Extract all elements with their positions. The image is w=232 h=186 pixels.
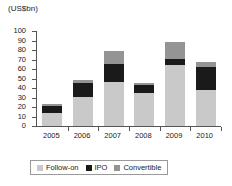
bar-segment[interactable] (73, 80, 93, 83)
y-tick-label: 30 (18, 94, 26, 102)
legend-item[interactable]: Convertible (114, 163, 161, 172)
bar-group[interactable] (73, 31, 93, 126)
bar-segment[interactable] (73, 97, 93, 126)
legend-label: Follow-on (46, 163, 79, 172)
bar-segment[interactable] (42, 113, 62, 126)
legend-label: Convertible (123, 163, 161, 172)
bar-segment[interactable] (196, 62, 216, 67)
y-axis: 1009080706050403020100 (0, 26, 32, 131)
bar-segment[interactable] (165, 59, 185, 66)
bar-segment[interactable] (104, 82, 124, 126)
y-tick-label: 60 (18, 65, 26, 73)
y-tick-label: 0 (22, 122, 26, 130)
bar-group[interactable] (165, 31, 185, 126)
y-tick-label: 50 (18, 75, 26, 83)
bar-segment[interactable] (73, 83, 93, 96)
bar-segment[interactable] (134, 85, 154, 93)
bar-segment[interactable] (104, 64, 124, 82)
y-tick-label: 20 (18, 103, 26, 111)
bar-segment[interactable] (104, 51, 124, 64)
legend-item[interactable]: IPO (86, 163, 108, 172)
y-axis-title: (US$bn) (8, 4, 38, 14)
bar-segment[interactable] (42, 106, 62, 113)
bar-group[interactable] (134, 31, 154, 126)
x-tick-label: 2007 (98, 131, 128, 141)
x-axis: 200520062007200820092010 (36, 131, 226, 143)
legend-item[interactable]: Follow-on (37, 163, 79, 172)
stacked-bar-chart: (US$bn) 1009080706050403020100 200520062… (0, 0, 232, 186)
legend-label: IPO (95, 163, 108, 172)
bar-segment[interactable] (42, 104, 62, 106)
x-tick-label: 2006 (67, 131, 97, 141)
y-tick-label: 90 (18, 37, 26, 45)
bar-segment[interactable] (196, 67, 216, 90)
bar-segment[interactable] (134, 93, 154, 126)
x-tick-label: 2009 (159, 131, 189, 141)
x-tick-label: 2005 (36, 131, 66, 141)
y-tick-label: 10 (18, 113, 26, 121)
bar-segment[interactable] (196, 90, 216, 126)
legend-swatch-convertible (114, 165, 120, 171)
chart-legend: Follow-onIPOConvertible (30, 160, 168, 175)
x-tick-label: 2010 (190, 131, 220, 141)
bar-group[interactable] (196, 31, 216, 126)
bar-segment[interactable] (134, 83, 154, 85)
y-tick-label: 40 (18, 84, 26, 92)
plot-area (36, 31, 221, 127)
y-tick-label: 70 (18, 56, 26, 64)
bar-group[interactable] (104, 31, 124, 126)
legend-swatch-follow-on (37, 165, 43, 171)
x-tick-label: 2008 (128, 131, 158, 141)
bar-segment[interactable] (165, 65, 185, 126)
legend-swatch-ipo (86, 165, 92, 171)
y-tick-label: 80 (18, 46, 26, 54)
bar-group[interactable] (42, 31, 62, 126)
y-tick-label: 100 (13, 27, 26, 35)
bar-segment[interactable] (165, 42, 185, 58)
